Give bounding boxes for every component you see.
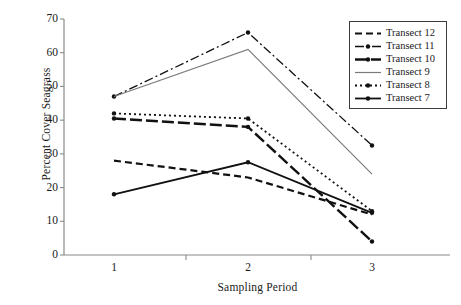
legend-line-sample-icon (353, 91, 383, 104)
legend-line-sample-icon (353, 52, 383, 65)
legend-item: Transect 12 (353, 26, 443, 39)
series-transect-10 (112, 116, 374, 243)
legend-label: Transect 11 (383, 39, 435, 52)
data-point (112, 192, 116, 196)
legend-marker (366, 96, 370, 100)
data-point (370, 211, 374, 215)
data-point (112, 111, 116, 115)
series-transect-9 (114, 49, 372, 174)
legend-marker (366, 83, 370, 87)
chart-legend: Transect 12Transect 11Transect 10Transec… (349, 21, 447, 109)
legend-label: Transect 9 (383, 65, 430, 78)
legend-item: Transect 9 (353, 65, 443, 78)
legend-marker (366, 57, 370, 61)
legend-label: Transect 8 (383, 78, 430, 91)
series-line (114, 49, 372, 174)
legend-label: Transect 10 (383, 52, 435, 65)
legend-line-sample-icon (353, 39, 383, 52)
data-point (370, 239, 374, 243)
series-line (114, 118, 372, 241)
series-line (114, 32, 372, 145)
legend-item: Transect 11 (353, 39, 443, 52)
data-point (246, 125, 250, 129)
legend-marker (366, 44, 370, 48)
legend-line-sample-icon (353, 78, 383, 91)
data-point (246, 116, 250, 120)
x-axis-tick-label: 1 (94, 262, 134, 274)
legend-item: Transect 10 (353, 52, 443, 65)
legend-line-sample-icon (353, 65, 383, 78)
data-point (246, 30, 250, 34)
data-point (112, 116, 116, 120)
series-transect-7 (112, 160, 374, 215)
data-point (246, 160, 250, 164)
x-axis-tick-labels: 123 (0, 262, 461, 278)
x-axis-tick-label: 2 (228, 262, 268, 274)
legend-item: Transect 7 (353, 91, 443, 104)
x-axis-tick-label: 3 (352, 262, 392, 274)
legend-label: Transect 12 (383, 26, 435, 39)
legend-item: Transect 8 (353, 78, 443, 91)
legend-label: Transect 7 (383, 91, 430, 104)
x-axis-title: Sampling Period (64, 281, 451, 293)
data-point (370, 143, 374, 147)
legend-line-sample-icon (353, 26, 383, 39)
series-transect-11 (112, 30, 374, 147)
seagrass-line-chart: Percent Cover Seagrass 010203040506070 1… (0, 0, 461, 305)
